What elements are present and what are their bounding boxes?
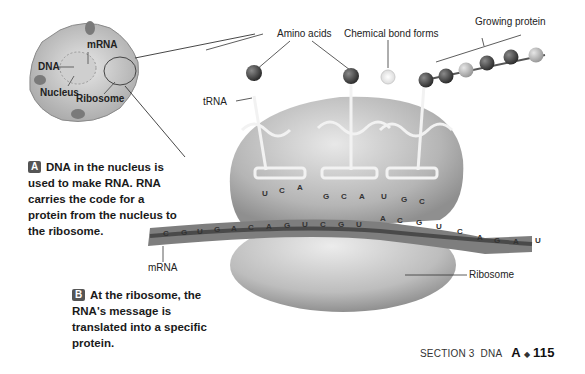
amino-acid-icon <box>343 68 359 84</box>
svg-text:C: C <box>320 220 326 229</box>
svg-text:G: G <box>338 220 344 229</box>
cell-label-mrna: mRNA <box>87 39 118 50</box>
label-growing-protein: Growing protein <box>475 16 546 27</box>
label-mrna: mRNA <box>148 262 177 273</box>
svg-text:A: A <box>477 233 483 242</box>
svg-text:U: U <box>302 220 308 229</box>
cell-label-dna: DNA <box>38 61 60 72</box>
svg-text:C: C <box>248 223 254 232</box>
svg-text:C: C <box>457 227 463 236</box>
svg-text:A: A <box>359 192 365 201</box>
footer-chapter: DNA <box>481 348 503 359</box>
svg-text:U: U <box>197 227 203 236</box>
svg-text:A: A <box>297 183 303 192</box>
svg-text:A: A <box>266 222 272 231</box>
footer-section: SECTION 3 <box>420 348 475 359</box>
svg-text:G: G <box>401 195 407 204</box>
svg-text:U: U <box>381 192 387 201</box>
page-footer: SECTION 3 DNA A ◆ 115 <box>420 345 555 360</box>
callout-b-badge: B <box>72 289 85 301</box>
callout-a-text: DNA in the nucleus is used to make RNA. … <box>28 161 177 237</box>
svg-text:G: G <box>284 221 290 230</box>
callout-b-text: At the ribosome, the RNA's message is tr… <box>72 289 207 349</box>
footer-separator-icon: ◆ <box>524 350 530 359</box>
label-chemical-bond: Chemical bond forms <box>344 28 438 39</box>
svg-text:A: A <box>513 237 519 246</box>
svg-text:U: U <box>262 189 268 198</box>
svg-text:G: G <box>323 192 329 201</box>
svg-text:C: C <box>341 192 347 201</box>
footer-page-number: 115 <box>533 345 555 360</box>
svg-text:G: G <box>214 225 220 234</box>
cell-label-nucleus: Nucleus <box>40 87 79 98</box>
svg-text:U: U <box>535 236 541 245</box>
svg-text:C: C <box>397 216 403 225</box>
label-amino-acids: Amino acids <box>277 28 331 39</box>
cell-label-ribosome: Ribosome <box>76 93 124 104</box>
svg-text:U: U <box>356 220 362 229</box>
callout-a-badge: A <box>28 161 41 173</box>
footer-unit: A <box>511 345 521 360</box>
callout-a: ADNA in the nucleus is used to make RNA.… <box>28 159 178 239</box>
svg-text:A: A <box>380 214 386 223</box>
svg-text:C: C <box>279 186 285 195</box>
chemical-bond-spark-icon <box>381 70 395 84</box>
svg-text:G: G <box>181 228 187 237</box>
svg-text:G: G <box>494 236 500 245</box>
amino-acid-chain <box>206 34 545 88</box>
svg-text:A: A <box>231 224 237 233</box>
amino-acid-icon <box>246 65 262 81</box>
label-ribosome: Ribosome <box>469 269 514 280</box>
svg-text:U: U <box>436 222 442 231</box>
svg-text:C: C <box>419 197 425 206</box>
label-trna: tRNA <box>203 96 227 107</box>
svg-text:G: G <box>416 218 422 227</box>
callout-b: BAt the ribosome, the RNA's message is t… <box>72 287 207 351</box>
